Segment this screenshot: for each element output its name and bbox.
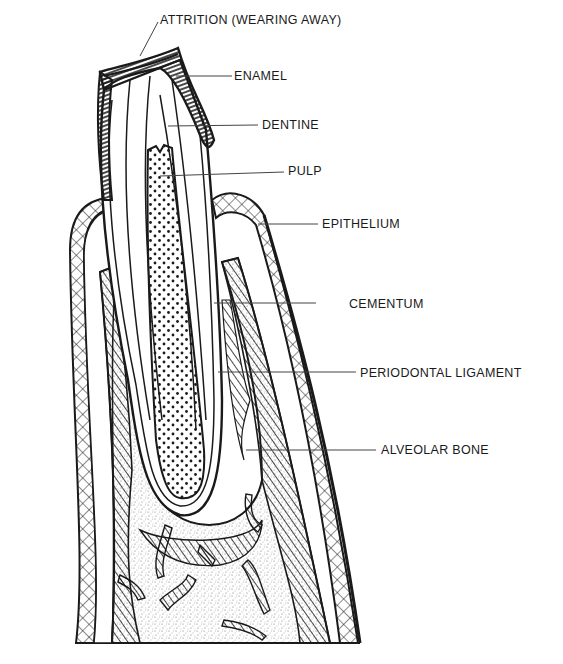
label-cementum: CEMENTUM [349, 297, 424, 311]
label-alveolar-bone: ALVEOLAR BONE [381, 443, 489, 457]
label-enamel: ENAMEL [234, 69, 287, 83]
label-epithelium: EPITHELIUM [322, 217, 400, 231]
label-dentine: DENTINE [262, 118, 319, 132]
label-attrition: ATTRITION (WEARING AWAY) [160, 13, 342, 27]
leader-attrition [140, 22, 158, 56]
tooth-diagram [0, 0, 563, 664]
label-periodontal-ligament: PERIODONTAL LIGAMENT [360, 366, 522, 380]
label-pulp: PULP [288, 164, 322, 178]
